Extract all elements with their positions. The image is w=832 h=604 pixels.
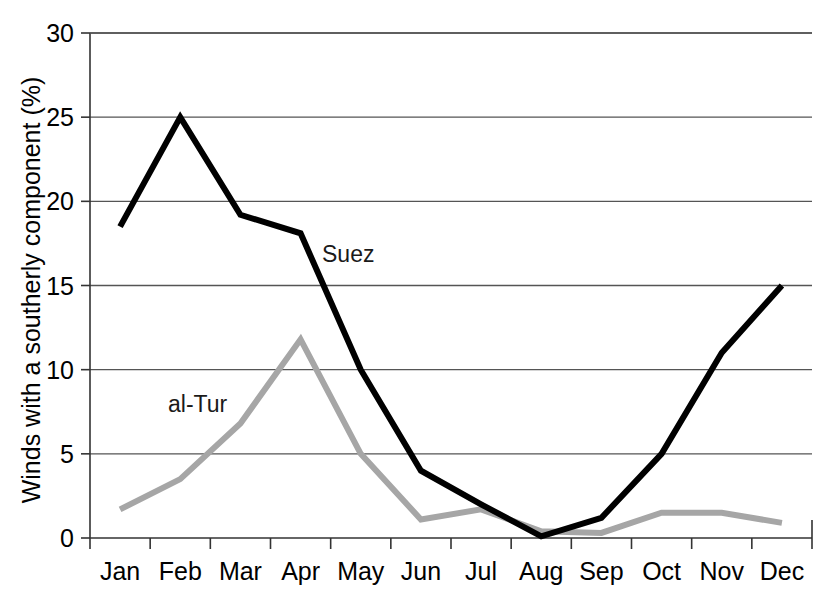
y-tick-label: 5 [60,440,74,468]
x-tick-label-may: May [337,557,385,585]
series-annotation-suez: Suez [322,241,374,267]
x-tick-label-aug: Aug [519,557,563,585]
y-tick-label: 30 [46,19,74,47]
x-tick-label-jun: Jun [401,557,441,585]
y-tick-label: 0 [60,524,74,552]
chart-figure: 051015202530 JanFebMarAprMayJunJulAugSep… [0,0,832,604]
x-tick-label-feb: Feb [159,557,202,585]
x-tick-label-dec: Dec [760,557,804,585]
x-tick-label-apr: Apr [281,557,320,585]
y-tick-label: 15 [46,272,74,300]
y-tick-label: 10 [46,356,74,384]
y-tick-label: 25 [46,103,74,131]
y-tick-label: 20 [46,187,74,215]
x-tick-label-sep: Sep [579,557,623,585]
x-tick-label-mar: Mar [219,557,262,585]
y-axis-title: Winds with a southerly component (%) [17,77,45,504]
x-tick-label-nov: Nov [700,557,745,585]
line-chart: 051015202530 JanFebMarAprMayJunJulAugSep… [0,0,832,604]
x-tick-label-jul: Jul [465,557,497,585]
series-annotation-al-tur: al-Tur [168,391,228,417]
x-tick-label-jan: Jan [100,557,140,585]
x-tick-label-oct: Oct [642,557,681,585]
